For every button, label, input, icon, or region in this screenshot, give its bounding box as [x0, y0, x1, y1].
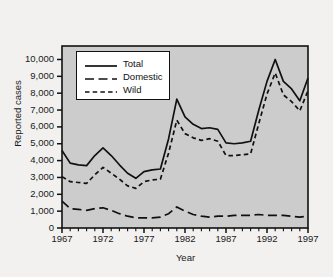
- chart-figure: 01,0002,0003,0004,0005,0006,0007,0008,00…: [0, 0, 333, 277]
- x-axis-tick-label: 1977: [124, 233, 164, 244]
- x-axis-tick-label: 1972: [83, 233, 123, 244]
- y-axis-tick-label: 3,000: [10, 171, 54, 182]
- legend-item-label: Total: [123, 58, 143, 69]
- x-axis-tick-label: 1992: [247, 233, 287, 244]
- legend-item-wild: Wild: [84, 83, 163, 96]
- legend-line-swatch: [84, 58, 118, 70]
- y-axis-tick-label: 2,000: [10, 188, 54, 199]
- y-axis-title: Reported cases: [12, 59, 23, 169]
- x-axis-tick-label: 1987: [206, 233, 246, 244]
- legend-item-total: Total: [84, 57, 163, 70]
- x-axis-tick-label: 1997: [288, 233, 328, 244]
- legend-line-swatch: [84, 71, 118, 83]
- chart-legend: TotalDomesticWild: [76, 51, 170, 100]
- x-axis-tick-label: 1967: [42, 233, 82, 244]
- legend-line-swatch: [84, 84, 118, 96]
- legend-item-label: Wild: [123, 84, 141, 95]
- x-axis-title: Year: [62, 252, 309, 263]
- x-axis-tick-label: 1982: [165, 233, 205, 244]
- y-axis-tick-label: 0: [10, 222, 54, 233]
- y-axis-tick-label: 1,000: [10, 205, 54, 216]
- legend-item-domestic: Domestic: [84, 70, 163, 83]
- legend-item-label: Domestic: [123, 71, 163, 82]
